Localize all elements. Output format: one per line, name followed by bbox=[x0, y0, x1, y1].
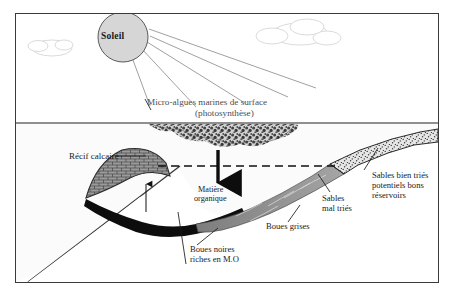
grey-muds-label: Boues grises bbox=[266, 222, 310, 232]
sands-well-sorted-label-line2: potentiels bons bbox=[372, 180, 424, 190]
sands-poorly-sorted-label-line2: mal triés bbox=[322, 204, 352, 214]
diagram-root: Soleil Micro-algues marines de surface (… bbox=[0, 0, 451, 296]
reef-label: Récif calcaire bbox=[69, 151, 119, 161]
algae-label-line1: Micro-algues marines de surface bbox=[147, 97, 267, 107]
organic-matter-label-line1: Matière bbox=[198, 185, 223, 194]
black-muds-label-line2: riches en M.O bbox=[190, 255, 239, 265]
sands-well-sorted-label-line3: réservoirs bbox=[372, 190, 406, 200]
organic-matter-label-line2: organique bbox=[194, 194, 227, 203]
sands-well-sorted-label-line1: Sables bien triés bbox=[372, 170, 428, 180]
sun-label: Soleil bbox=[101, 31, 124, 42]
algae-label-line2: (photosynthèse) bbox=[195, 108, 254, 118]
